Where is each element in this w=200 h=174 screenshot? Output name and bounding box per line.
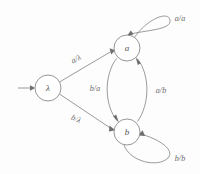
edge-label-lambda-to-a: a/λ [70, 53, 83, 66]
state-node-lambda[interactable]: λ [35, 75, 61, 101]
state-node-lambda-label: λ [45, 83, 50, 93]
edge-label-a-self-loop: a/a [175, 14, 186, 23]
edge-lambda-to-b[interactable]: b/λ [60, 94, 116, 131]
state-node-a[interactable]: a [114, 35, 140, 61]
start-arrow [18, 85, 35, 91]
edge-a-to-b-curve [107, 59, 117, 121]
edge-b-to-a-curve [138, 59, 147, 122]
state-node-b-label: b [125, 127, 130, 137]
edge-label-lambda-to-b: b/λ [70, 113, 83, 126]
edge-label-a-to-b: b/a [90, 84, 101, 93]
diagram-canvas: a/λ b/λ b/a a/b a/a [0, 0, 200, 174]
edge-a-to-b[interactable]: b/a [90, 59, 119, 123]
edge-b-to-a[interactable]: a/b [136, 57, 167, 122]
edge-lambda-to-a-line [60, 52, 112, 83]
state-node-b[interactable]: b [114, 119, 140, 145]
edge-lambda-to-a[interactable]: a/λ [60, 48, 116, 82]
state-node-a-label: a [125, 43, 130, 53]
edge-lambda-to-b-line [60, 94, 112, 129]
edge-label-b-self-loop: b/b [175, 154, 186, 163]
state-diagram-svg: a/λ b/λ b/a a/b a/a [0, 0, 200, 174]
edge-b-to-a-arrow-icon [136, 57, 141, 65]
edge-label-b-to-a: a/b [156, 86, 167, 95]
start-arrow-head-icon [30, 85, 35, 91]
edge-a-self-loop-curve [129, 16, 171, 37]
edge-a-self-loop[interactable]: a/a [127, 14, 186, 38]
